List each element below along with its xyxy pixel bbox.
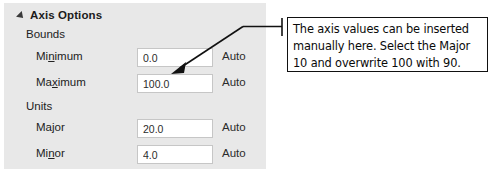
group-label-units: Units: [26, 100, 52, 112]
field-row-minimum: Minimum Auto: [4, 48, 266, 70]
maximum-input[interactable]: [137, 74, 213, 93]
label-text: Mi: [36, 147, 48, 159]
field-row-major: Major Auto: [4, 119, 266, 141]
annotation-text: The axis values can be inserted manually…: [293, 21, 483, 72]
auto-label-minor[interactable]: Auto: [222, 147, 246, 159]
label-text: or: [55, 147, 65, 159]
field-row-maximum: Maximum Auto: [4, 74, 266, 96]
label-text: or: [55, 121, 65, 133]
label-text: Ma: [36, 121, 52, 133]
axis-options-section-header[interactable]: Axis Options: [18, 9, 102, 21]
field-label-maximum: Maximum: [36, 76, 86, 88]
field-label-minimum: Minimum: [36, 50, 83, 62]
triangle-expanded-icon[interactable]: [16, 11, 26, 21]
auto-label-major[interactable]: Auto: [222, 121, 246, 133]
major-input[interactable]: [137, 119, 213, 138]
field-label-major: Major: [36, 121, 65, 133]
label-text: Ma: [36, 76, 52, 88]
label-text: Mi: [36, 50, 48, 62]
field-row-minor: Minor Auto: [4, 145, 266, 167]
annotation-callout: The axis values can be inserted manually…: [287, 17, 488, 72]
minor-input[interactable]: [137, 145, 213, 164]
group-label-bounds: Bounds: [26, 28, 65, 40]
label-text: imum: [55, 50, 83, 62]
label-text: imum: [58, 76, 86, 88]
field-label-minor: Minor: [36, 147, 65, 159]
page-title: Axis Options: [30, 9, 102, 21]
auto-label-minimum[interactable]: Auto: [222, 50, 246, 62]
auto-label-maximum[interactable]: Auto: [222, 76, 246, 88]
axis-options-panel: Axis Options Bounds Units Minimum Auto M…: [4, 3, 266, 169]
minimum-input[interactable]: [137, 48, 213, 67]
